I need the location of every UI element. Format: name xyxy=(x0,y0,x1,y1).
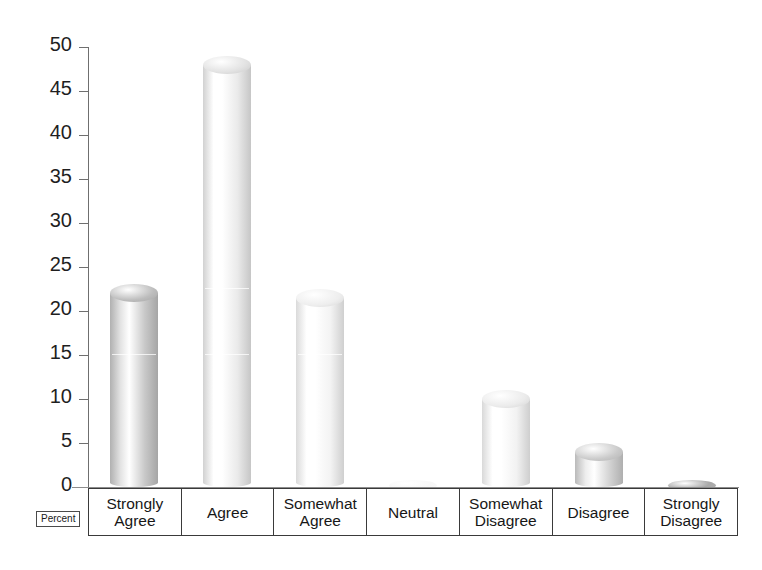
cylinder-body xyxy=(482,399,530,487)
y-tick-label: 30 xyxy=(50,210,72,230)
y-tick-mark xyxy=(79,355,88,356)
category-label-text: SomewhatAgree xyxy=(284,495,357,529)
cylinder-body xyxy=(296,298,344,487)
category-label-text: SomewhatDisagree xyxy=(469,495,542,529)
cylinder-top xyxy=(110,284,158,302)
category-label-disagree[interactable]: Disagree xyxy=(552,489,645,535)
bar-agree[interactable] xyxy=(181,47,274,487)
cylinder-seam xyxy=(112,354,156,355)
cylinder-seam xyxy=(205,354,249,355)
y-tick-mark xyxy=(79,91,88,92)
y-tick-label: 25 xyxy=(50,254,72,274)
category-label-somewhat-disagree[interactable]: SomewhatDisagree xyxy=(459,489,552,535)
cylinder-body xyxy=(110,293,158,487)
y-tick-label: 50 xyxy=(50,34,72,54)
cylinder xyxy=(296,298,344,487)
category-label-text: Disagree xyxy=(567,504,629,521)
category-label-text: StronglyAgree xyxy=(106,495,163,529)
y-tick-label: 45 xyxy=(50,78,72,98)
cylinder xyxy=(575,452,623,487)
category-label-strongly-agree[interactable]: StronglyAgree xyxy=(88,489,181,535)
y-tick-mark xyxy=(79,267,88,268)
y-tick-mark xyxy=(79,443,88,444)
plot-area xyxy=(88,47,738,487)
category-label-text: Neutral xyxy=(388,504,438,521)
y-tick-label: 15 xyxy=(50,342,72,362)
bar-somewhat-agree[interactable] xyxy=(274,47,367,487)
y-tick-label: 40 xyxy=(50,122,72,142)
percent-corner-label: Percent xyxy=(36,511,80,527)
y-tick-mark xyxy=(79,223,88,224)
cylinder-top xyxy=(203,56,251,74)
cylinder-top xyxy=(482,390,530,408)
category-label-strongly-disagree[interactable]: StronglyDisagree xyxy=(644,489,737,535)
category-label-neutral[interactable]: Neutral xyxy=(366,489,459,535)
y-tick-mark xyxy=(79,135,88,136)
y-tick-label: 35 xyxy=(50,166,72,186)
cylinder-top xyxy=(575,443,623,461)
category-label-somewhat-agree[interactable]: SomewhatAgree xyxy=(273,489,366,535)
category-label-agree[interactable]: Agree xyxy=(181,489,274,535)
chart-container: 50454035302520151050 StronglyAgreeAgreeS… xyxy=(0,0,762,570)
y-tick-mark xyxy=(79,311,88,312)
bar-neutral[interactable] xyxy=(367,47,460,487)
cylinder-top xyxy=(296,289,344,307)
cylinder xyxy=(110,293,158,487)
y-tick-mark xyxy=(79,47,88,48)
y-tick-mark xyxy=(79,399,88,400)
y-tick-label: 5 xyxy=(61,430,72,450)
cylinder-body xyxy=(203,65,251,487)
bar-somewhat-disagree[interactable] xyxy=(459,47,552,487)
bar-disagree[interactable] xyxy=(552,47,645,487)
category-label-text: StronglyDisagree xyxy=(660,495,722,529)
cylinder-seam xyxy=(298,354,342,355)
bar-strongly-agree[interactable] xyxy=(88,47,181,487)
cylinder xyxy=(203,65,251,487)
y-tick-label: 0 xyxy=(61,474,72,494)
y-tick-mark xyxy=(79,179,88,180)
category-label-text: Agree xyxy=(207,504,248,521)
category-axis-table: StronglyAgreeAgreeSomewhatAgreeNeutralSo… xyxy=(88,488,738,536)
y-tick-label: 20 xyxy=(50,298,72,318)
bar-strongly-disagree[interactable] xyxy=(645,47,738,487)
cylinder-seam xyxy=(205,288,249,289)
cylinder xyxy=(482,399,530,487)
y-tick-label: 10 xyxy=(50,386,72,406)
